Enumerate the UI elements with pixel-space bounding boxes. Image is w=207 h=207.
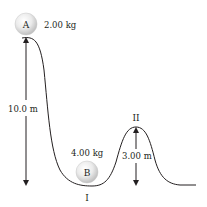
ball-b-label: B (84, 168, 91, 178)
track-curve (22, 38, 196, 186)
ball-a-mass: 2.00 kg (44, 20, 77, 30)
ball-b-mass: 4.00 kg (71, 148, 104, 158)
point-ii-label: II (132, 113, 140, 123)
point-i-label: I (85, 193, 89, 203)
ball-a-label: A (22, 20, 30, 30)
ball-a: A (15, 13, 37, 35)
height-peak-label: 3.00 m (122, 151, 152, 161)
roller-coaster-diagram: 10.0 m 3.00 m A 2.00 kg B 4.00 kg I II (0, 0, 207, 207)
height-a-label: 10.0 m (8, 104, 38, 114)
ball-b: B (76, 161, 98, 183)
